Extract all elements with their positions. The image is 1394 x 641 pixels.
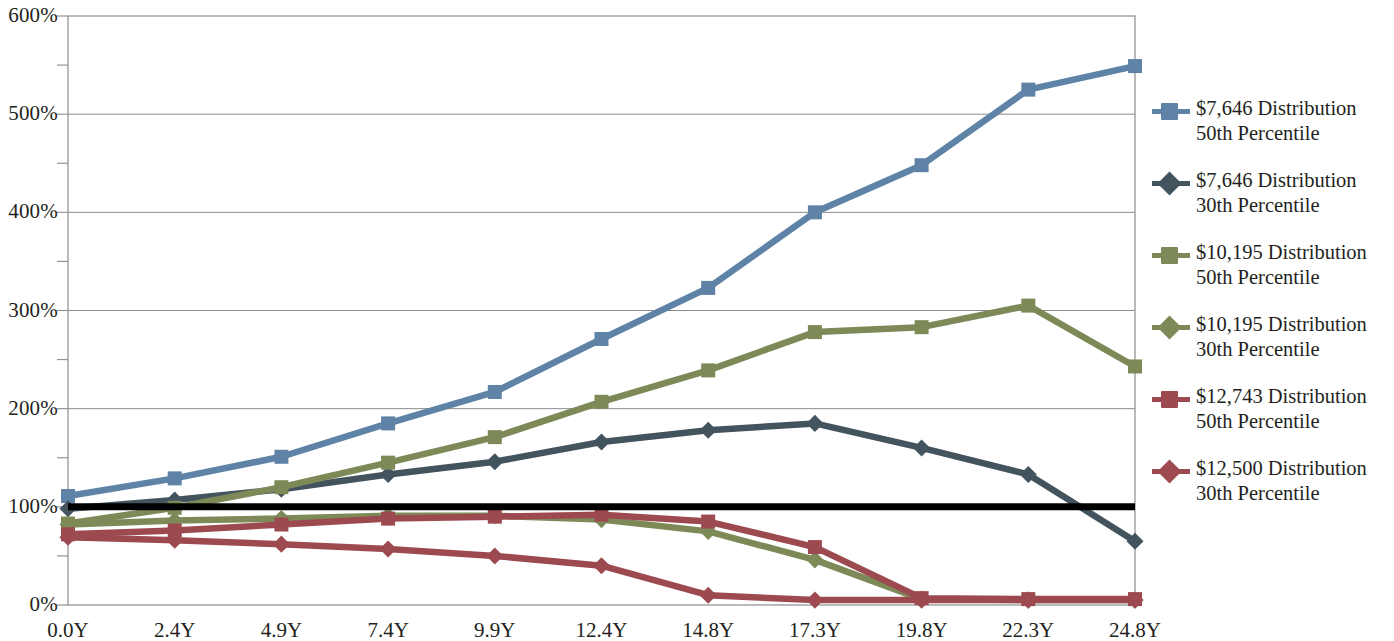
data-point [381,512,395,526]
data-point [381,416,395,430]
legend-label: $7,646 Distribution 30th Percentile [1190,168,1357,218]
x-tick-label: 14.8Y [682,620,734,641]
legend-label: $7,646 Distribution 50th Percentile [1190,96,1357,146]
x-tick-label: 9.9Y [474,620,515,641]
data-point [274,518,288,532]
x-tick-label: 24.8Y [1109,620,1161,641]
x-tick-label: 4.9Y [261,620,302,641]
legend-marker-icon [1152,172,1190,194]
legend-marker-icon [1152,244,1190,266]
data-point [168,471,182,485]
y-tick-label: 600% [0,5,58,26]
data-point [808,205,822,219]
data-point [274,450,288,464]
x-tick-label: 12.4Y [576,620,628,641]
x-tick-label: 17.3Y [789,620,841,641]
legend-diamond-icon [1157,459,1181,483]
legend-square-icon [1161,247,1178,264]
data-point [1128,59,1142,73]
data-point [488,430,502,444]
y-tick-label: 100% [0,496,58,517]
legend-label: $10,195 Distribution 30th Percentile [1190,312,1367,362]
chart-page: 0%100%200%300%400%500%600% 0.0Y2.4Y4.9Y7… [0,0,1394,641]
legend-label: $10,195 Distribution 50th Percentile [1190,240,1367,290]
legend-marker-icon [1152,100,1190,122]
x-tick-label: 2.4Y [154,620,195,641]
legend-diamond-icon [1157,171,1181,195]
data-point [595,395,609,409]
data-point [488,510,502,524]
data-point [1021,83,1035,97]
x-tick-label: 7.4Y [367,620,408,641]
data-point [488,385,502,399]
y-tick-label: 300% [0,300,58,321]
data-point [595,332,609,346]
legend-square-icon [1161,391,1178,408]
legend-label: $12,500 Distribution 30th Percentile [1190,456,1367,506]
y-tick-label: 500% [0,103,58,124]
y-axis: 0%100%200%300%400%500%600% [0,0,58,641]
legend-marker-icon [1152,388,1190,410]
legend-item[interactable]: $10,195 Distribution 30th Percentile [1152,312,1394,362]
data-point [701,363,715,377]
data-point [1021,299,1035,313]
y-tick-label: 200% [0,398,58,419]
data-point [274,480,288,494]
legend-item[interactable]: $7,646 Distribution 50th Percentile [1152,96,1394,146]
data-point [808,540,822,554]
legend-item[interactable]: $7,646 Distribution 30th Percentile [1152,168,1394,218]
x-axis: 0.0Y2.4Y4.9Y7.4Y9.9Y12.4Y14.8Y17.3Y19.8Y… [0,612,1160,641]
data-point [808,325,822,339]
x-tick-label: 22.3Y [1002,620,1054,641]
legend-marker-icon [1152,316,1190,338]
x-tick-label: 0.0Y [47,620,88,641]
data-point [701,515,715,529]
legend-item[interactable]: $12,743 Distribution 50th Percentile [1152,384,1394,434]
data-point [381,456,395,470]
legend-label: $12,743 Distribution 50th Percentile [1190,384,1367,434]
legend-item[interactable]: $10,195 Distribution 50th Percentile [1152,240,1394,290]
legend-item[interactable]: $12,500 Distribution 30th Percentile [1152,456,1394,506]
data-point [701,281,715,295]
data-point [915,158,929,172]
legend-square-icon [1161,103,1178,120]
data-point [1128,359,1142,373]
legend-marker-icon [1152,460,1190,482]
data-point [915,320,929,334]
x-tick-label: 19.8Y [896,620,948,641]
chart-legend: $7,646 Distribution 50th Percentile$7,64… [1152,96,1394,528]
y-tick-label: 400% [0,201,58,222]
legend-diamond-icon [1157,315,1181,339]
